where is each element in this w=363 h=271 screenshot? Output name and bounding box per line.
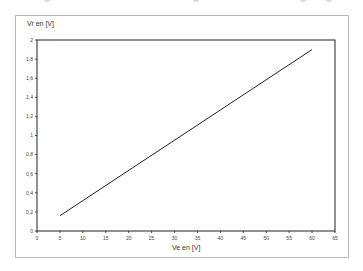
x-tick-label: 0: [36, 235, 39, 241]
x-tick-label: 45: [241, 235, 247, 241]
x-tick-label: 35: [195, 235, 201, 241]
line-chart: 00,20,40,60,811,21,41,61,820510152025303…: [0, 0, 363, 271]
y-tick-label: 1,2: [26, 113, 33, 119]
x-tick-label: 20: [126, 235, 132, 241]
x-tick-label: 50: [263, 235, 269, 241]
x-tick-label: 25: [149, 235, 155, 241]
x-tick-label: 55: [286, 235, 292, 241]
y-tick-label: 0,6: [26, 171, 33, 177]
x-tick-label: 60: [309, 235, 315, 241]
x-tick-label: 30: [172, 235, 178, 241]
series-line: [60, 50, 312, 216]
y-tick-label: 0,4: [26, 190, 33, 196]
x-tick-label: 5: [59, 235, 62, 241]
x-tick-label: 65: [332, 235, 338, 241]
y-tick-label: 1: [30, 132, 33, 138]
y-tick-label: 0,2: [26, 209, 33, 215]
y-tick-label: 0: [30, 228, 33, 234]
y-tick-label: 0,8: [26, 151, 33, 157]
y-tick-label: 1,8: [26, 56, 33, 62]
x-tick-label: 10: [80, 235, 86, 241]
x-tick-label: 15: [103, 235, 109, 241]
y-tick-label: 1,6: [26, 75, 33, 81]
plot-area: [37, 40, 335, 231]
y-tick-label: 2: [30, 37, 33, 43]
x-tick-label: 40: [218, 235, 224, 241]
y-tick-label: 1,4: [26, 94, 33, 100]
